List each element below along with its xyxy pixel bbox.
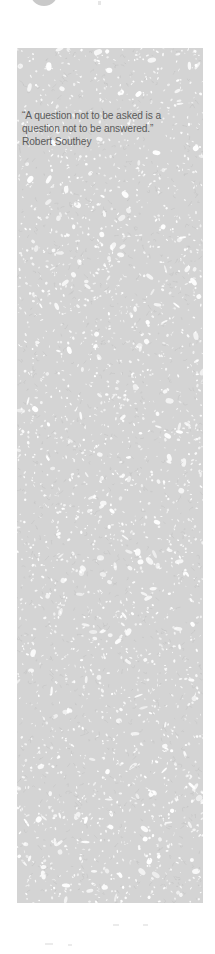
texture-vein [199, 851, 200, 854]
texture-speck [25, 276, 26, 278]
texture-vein [84, 532, 87, 536]
texture-speck [139, 705, 148, 710]
texture-speck [78, 311, 81, 313]
texture-vein [129, 264, 133, 266]
texture-speck [77, 771, 81, 773]
texture-speck [91, 870, 97, 873]
texture-speck [190, 498, 193, 501]
texture-speck [63, 306, 66, 308]
texture-speck [184, 470, 186, 471]
texture-vein [27, 389, 29, 390]
texture-speck [160, 516, 163, 517]
texture-speck [193, 837, 195, 839]
texture-vein [132, 805, 135, 808]
texture-speck [65, 655, 67, 656]
texture-speck [91, 343, 93, 345]
texture-speck [96, 203, 100, 207]
texture-speck [186, 825, 188, 828]
texture-speck [97, 56, 98, 58]
texture-speck [189, 81, 192, 84]
texture-speck [107, 839, 110, 842]
texture-speck [132, 431, 134, 434]
texture-speck [166, 548, 173, 553]
texture-speck [196, 831, 198, 832]
texture-speck [135, 793, 140, 800]
texture-speck [112, 728, 113, 729]
texture-speck [96, 59, 100, 62]
texture-speck [137, 280, 139, 281]
texture-speck [18, 446, 20, 448]
texture-speck [152, 803, 156, 807]
texture-speck [85, 163, 88, 166]
texture-speck [125, 651, 128, 654]
texture-speck [113, 616, 115, 618]
texture-speck [144, 679, 146, 681]
texture-speck [201, 541, 203, 545]
texture-speck [196, 830, 199, 832]
texture-speck [45, 721, 48, 724]
texture-speck [174, 524, 177, 528]
texture-speck [163, 831, 164, 832]
texture-speck [46, 800, 47, 803]
texture-speck [36, 302, 38, 304]
texture-vein [120, 775, 121, 777]
texture-speck [87, 556, 89, 558]
texture-speck [133, 215, 136, 217]
texture-speck [72, 637, 75, 641]
texture-speck [34, 472, 36, 474]
texture-vein [171, 208, 175, 210]
texture-vein [154, 438, 158, 440]
texture-vein [36, 358, 39, 361]
texture-speck [60, 396, 62, 399]
texture-speck [21, 429, 26, 434]
texture-speck [175, 483, 176, 484]
texture-speck [81, 860, 83, 863]
texture-speck [29, 875, 32, 877]
texture-speck [142, 414, 144, 416]
texture-speck [79, 155, 82, 158]
texture-speck [59, 801, 61, 803]
texture-speck [117, 261, 120, 263]
texture-speck [105, 226, 107, 228]
faint-bottom-mark [68, 944, 72, 946]
texture-vein [168, 378, 169, 380]
texture-vein [176, 272, 180, 275]
texture-speck [148, 721, 150, 722]
texture-speck [114, 508, 117, 511]
texture-speck [114, 749, 116, 751]
texture-vein [158, 332, 159, 334]
texture-vein [151, 233, 154, 236]
texture-speck [96, 74, 97, 76]
texture-vein [84, 824, 87, 828]
texture-speck [164, 430, 167, 432]
texture-speck [171, 331, 173, 334]
texture-vein [119, 824, 121, 828]
texture-vein [161, 460, 164, 463]
texture-speck [82, 512, 84, 514]
texture-vein [83, 767, 86, 769]
texture-speck [51, 889, 53, 891]
texture-speck [75, 766, 76, 768]
texture-vein [128, 723, 131, 725]
texture-vein [94, 835, 97, 838]
texture-speck [109, 533, 111, 535]
texture-vein [156, 702, 158, 707]
texture-speck [92, 547, 95, 550]
texture-speck [190, 364, 193, 367]
texture-speck [121, 312, 122, 315]
texture-speck [174, 286, 177, 288]
texture-vein [176, 886, 178, 887]
texture-speck [147, 185, 150, 188]
texture-vein [90, 654, 92, 655]
texture-speck [196, 616, 200, 619]
texture-vein [42, 486, 45, 489]
texture-speck [157, 214, 160, 217]
texture-speck [143, 775, 147, 779]
texture-speck [122, 530, 124, 533]
texture-vein [78, 266, 80, 269]
texture-vein [164, 728, 166, 732]
texture-speck [66, 516, 68, 518]
texture-vein [197, 555, 200, 559]
texture-speck [87, 505, 89, 506]
texture-speck [17, 140, 18, 141]
